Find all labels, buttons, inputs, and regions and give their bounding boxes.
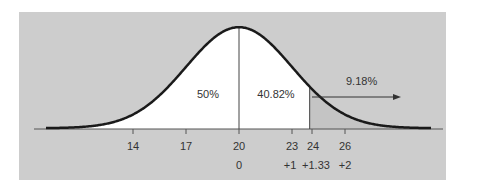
- tick-label-24: 24: [307, 140, 319, 152]
- tick-label-20: 20: [233, 140, 245, 152]
- z-label-plus1: +1: [284, 159, 297, 171]
- normal-distribution-chart: 50% 40.82% 9.18% 14 17 20 23 24 26 0 +1 …: [0, 0, 477, 189]
- tick-label-26: 26: [339, 140, 351, 152]
- z-label-plus1-33: +1.33: [302, 159, 330, 171]
- z-label-0: 0: [236, 159, 242, 171]
- tick-label-14: 14: [127, 140, 139, 152]
- label-40-82-percent: 40.82%: [257, 88, 295, 100]
- tick-label-23: 23: [286, 140, 298, 152]
- label-50-percent: 50%: [197, 88, 219, 100]
- z-label-plus2: +2: [339, 159, 352, 171]
- label-9-18-percent: 9.18%: [346, 75, 377, 87]
- tick-label-17: 17: [180, 140, 192, 152]
